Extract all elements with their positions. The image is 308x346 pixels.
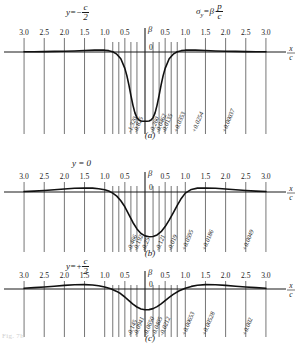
beta-axis-label: β bbox=[147, 24, 153, 34]
tick-label: 1.0 bbox=[100, 172, 110, 181]
tick-label: 0 bbox=[149, 43, 153, 52]
tick-label: 1.0 bbox=[100, 271, 110, 280]
tick-label: 0 bbox=[149, 280, 153, 289]
tick-label: 2.5 bbox=[39, 172, 49, 181]
tick-label: 3.0 bbox=[261, 172, 271, 181]
tick-label: 2.5 bbox=[241, 172, 251, 181]
chart-svg-b: 3.02.52.01.51.00.500.51.01.52.02.53.0βxc… bbox=[0, 166, 308, 258]
chart-panel-a: 3.02.52.01.51.00.500.51.01.52.02.53.0βxc… bbox=[0, 16, 308, 140]
tick-label: 1.5 bbox=[80, 271, 90, 280]
tick-label: 1.5 bbox=[201, 172, 211, 181]
curve-value-label: +0.0595 bbox=[180, 228, 195, 251]
beta-axis-label: β bbox=[147, 267, 153, 277]
chart-svg-a: 3.02.52.01.51.00.500.51.01.52.02.53.0βxc… bbox=[0, 16, 308, 140]
tick-label: 1.5 bbox=[201, 271, 211, 280]
tick-label: 1.5 bbox=[80, 28, 90, 37]
tick-label: 3.0 bbox=[261, 28, 271, 37]
figure-page: y=−c2 σy=β·pc y = 0 y=+c2 3.02.52.01.51.… bbox=[0, 0, 308, 346]
curve-value-label: -0.019 bbox=[166, 233, 179, 252]
tick-label: 1.0 bbox=[181, 172, 191, 181]
tick-label: 2.0 bbox=[60, 271, 70, 280]
tick-label: 3.0 bbox=[19, 271, 29, 280]
svg-text:c: c bbox=[289, 290, 293, 299]
svg-text:x: x bbox=[288, 184, 293, 193]
tick-label: 0.5 bbox=[160, 172, 170, 181]
tick-label: 1.0 bbox=[181, 28, 191, 37]
figure-footer-note: Fig. 7b bbox=[2, 332, 24, 340]
panel-letter: (c) bbox=[145, 333, 155, 343]
x-axis-label: xc bbox=[287, 281, 295, 299]
curve-value-label: +0.002 bbox=[240, 316, 254, 337]
chart-svg-c: 3.02.52.01.51.00.500.51.01.52.02.53.0βxc… bbox=[0, 265, 308, 343]
curve-value-label: +0.0049 bbox=[240, 228, 255, 252]
tick-label: 3.0 bbox=[19, 172, 29, 181]
tick-label: 1.0 bbox=[100, 28, 110, 37]
tick-label: 2.0 bbox=[60, 172, 70, 181]
x-axis-label: xc bbox=[287, 44, 295, 62]
tick-label: 1.0 bbox=[181, 271, 191, 280]
tick-label: 0 bbox=[149, 183, 153, 192]
curve-value-label: +0.0353 bbox=[172, 110, 187, 133]
panel-letter: (b) bbox=[145, 248, 156, 258]
curve-value-label: +0.0186 bbox=[200, 228, 215, 252]
panel-letter: (a) bbox=[145, 130, 156, 140]
tick-label: 2.0 bbox=[221, 28, 231, 37]
svg-text:x: x bbox=[288, 281, 293, 290]
tick-label: 2.5 bbox=[39, 271, 49, 280]
tick-label: 0.5 bbox=[160, 271, 170, 280]
tick-label: 0.5 bbox=[120, 172, 130, 181]
tick-label: 2.5 bbox=[241, 271, 251, 280]
tick-label: 0.5 bbox=[160, 28, 170, 37]
tick-label: 2.0 bbox=[221, 271, 231, 280]
tick-label: 1.5 bbox=[80, 172, 90, 181]
curve-value-label: +0.00528 bbox=[200, 310, 216, 337]
tick-label: 2.0 bbox=[60, 28, 70, 37]
tick-label: 3.0 bbox=[19, 28, 29, 37]
tick-label: 0.5 bbox=[120, 271, 130, 280]
curve-value-label: +0.0254 bbox=[190, 110, 205, 134]
tick-label: 1.5 bbox=[201, 28, 211, 37]
svg-text:x: x bbox=[288, 44, 293, 53]
tick-label: 2.5 bbox=[241, 28, 251, 37]
value-labels: -1.320-0.825-0.260-0.0462-0.0135+0.0353+… bbox=[125, 107, 236, 134]
chart-panel-b: 3.02.52.01.51.00.500.51.01.52.02.53.0βxc… bbox=[0, 166, 308, 258]
tick-label: 2.0 bbox=[221, 172, 231, 181]
tick-label: 0.5 bbox=[120, 28, 130, 37]
svg-text:c: c bbox=[289, 193, 293, 202]
chart-panel-c: 3.02.52.01.51.00.500.51.01.52.02.53.0βxc… bbox=[0, 265, 308, 343]
tick-label: 2.5 bbox=[39, 28, 49, 37]
curve-value-label: +0.00653 bbox=[180, 310, 196, 336]
x-axis-label: xc bbox=[287, 184, 295, 202]
beta-axis-label: β bbox=[147, 168, 153, 178]
svg-text:c: c bbox=[289, 53, 293, 62]
curve-value-label: +0.00037 bbox=[220, 107, 236, 134]
tick-label: 3.0 bbox=[261, 271, 271, 280]
